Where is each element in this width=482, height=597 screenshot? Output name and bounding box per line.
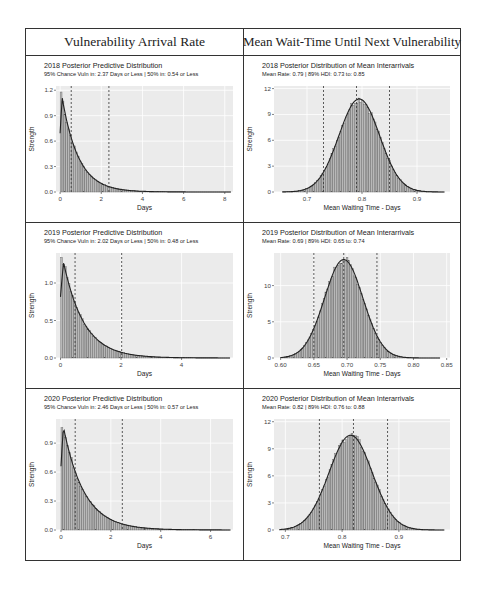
- histogram-bar: [307, 340, 309, 358]
- histogram-bar: [401, 182, 403, 192]
- histogram-bar: [353, 276, 355, 358]
- histogram-bar: [360, 448, 362, 530]
- histogram-bar: [386, 506, 388, 530]
- figure-table: Vulnerability Arrival Rate Mean Wait-Tim…: [25, 28, 461, 561]
- histogram-bar: [117, 523, 119, 530]
- histogram-bar: [72, 296, 74, 358]
- histogram-bar: [380, 137, 382, 192]
- y-tick-label: 1.2: [44, 86, 53, 93]
- chart-title: 2020 Posterior Distribution of Mean Inte…: [262, 394, 415, 403]
- histogram-bar: [328, 281, 330, 358]
- histogram-bar: [104, 516, 106, 530]
- histogram-bar: [354, 103, 356, 192]
- histogram-bar: [385, 153, 387, 192]
- x-tick-label: 6: [209, 533, 213, 540]
- chart-subtitle: 95% Chance Vuln in: 2.37 Days or Less | …: [44, 71, 198, 77]
- x-tick-label: 0.8: [338, 533, 347, 540]
- histogram-bar: [327, 289, 329, 358]
- histogram-bar: [91, 333, 93, 358]
- histogram-bar: [385, 349, 387, 358]
- histogram-bar: [349, 110, 351, 192]
- x-tick-label: 0.9: [395, 533, 404, 540]
- y-tick-label: 9: [268, 110, 272, 117]
- histogram-bar: [351, 103, 353, 192]
- y-axis-label: Strength: [246, 462, 254, 487]
- histogram-bar: [113, 350, 115, 358]
- histogram-bar: [329, 159, 331, 192]
- histogram-bar: [117, 351, 119, 358]
- histogram-bar: [382, 500, 384, 530]
- histogram-bar: [300, 524, 302, 530]
- histogram-bar: [89, 502, 91, 530]
- histogram-bar: [384, 503, 386, 530]
- y-tick-label: 6: [268, 472, 272, 479]
- histogram-bar: [85, 170, 87, 192]
- histogram-bar: [87, 172, 89, 192]
- histogram-bar: [366, 309, 368, 358]
- y-tick-label: 0.0: [44, 188, 53, 195]
- histogram-bar: [333, 459, 335, 530]
- histogram-bar: [100, 343, 102, 358]
- histogram-bar: [314, 505, 316, 530]
- histogram-bar: [337, 265, 339, 358]
- histogram-bar: [338, 445, 340, 530]
- histogram-bar: [111, 188, 113, 192]
- histogram-bar: [93, 336, 95, 358]
- histogram-bar: [362, 101, 364, 192]
- histogram-bar: [90, 176, 92, 192]
- histogram-bar: [349, 435, 351, 530]
- histogram-bar: [83, 324, 85, 358]
- histogram-bar: [344, 442, 346, 530]
- histogram-bar: [348, 261, 350, 358]
- histogram-bar: [303, 521, 305, 530]
- histogram-bar: [367, 315, 369, 358]
- histogram-bar: [390, 166, 392, 192]
- column-header-wait-time: Mean Wait-Time Until Next Vulnerability: [244, 29, 460, 56]
- histogram-bar: [363, 105, 365, 192]
- histogram-bar: [72, 468, 74, 530]
- chart-svg: 2020 Posterior Distribution of Mean Inte…: [244, 389, 460, 560]
- histogram-bar: [104, 346, 106, 358]
- histogram-bar: [123, 524, 125, 530]
- histogram-bar: [371, 113, 373, 192]
- y-tick-label: 0.5: [44, 317, 53, 324]
- histogram-bar: [125, 525, 127, 530]
- x-axis-label: Days: [137, 370, 153, 378]
- histogram-bar: [371, 473, 373, 530]
- histogram-bar: [351, 433, 353, 530]
- y-tick-label: 9: [268, 445, 272, 452]
- histogram-bar: [398, 178, 400, 192]
- y-tick-label: 1.0: [44, 279, 53, 286]
- y-tick-label: 12: [264, 85, 271, 92]
- histogram-bar: [318, 179, 320, 192]
- histogram-bar: [77, 157, 79, 192]
- histogram-bar: [321, 303, 323, 358]
- histogram-bar: [357, 284, 359, 358]
- chart-svg: 2019 Posterior Predictive Distribution95…: [26, 223, 243, 388]
- column-header-arrival-rate: Vulnerability Arrival Rate: [26, 29, 244, 56]
- histogram-bar: [70, 292, 72, 358]
- histogram-bar: [85, 326, 87, 358]
- histogram-bar: [316, 501, 318, 530]
- chart-title: 2019 Posterior Predictive Distribution: [44, 228, 162, 237]
- histogram-bar: [344, 261, 346, 358]
- histogram-bar: [377, 485, 379, 530]
- x-tick-label: 0.70: [341, 361, 354, 368]
- histogram-bar: [373, 328, 375, 358]
- histogram-bar: [329, 470, 331, 530]
- histogram-bar: [382, 345, 384, 358]
- histogram-bar: [85, 496, 87, 530]
- histogram-bar: [65, 438, 67, 530]
- histogram-bar: [395, 519, 397, 530]
- panel-wait-2018: 2018 Posterior Distribution of Mean Inte…: [244, 56, 460, 222]
- histogram-bar: [302, 348, 304, 358]
- histogram-bar: [314, 325, 316, 358]
- histogram-bar: [403, 184, 405, 192]
- histogram-bar: [378, 339, 380, 358]
- histogram-bar: [80, 487, 82, 530]
- chart-title: 2018 Posterior Predictive Distribution: [44, 61, 162, 70]
- histogram-bar: [358, 98, 360, 192]
- histogram-bar: [331, 153, 333, 192]
- x-tick-label: 8: [223, 195, 227, 202]
- histogram-bar: [320, 311, 322, 358]
